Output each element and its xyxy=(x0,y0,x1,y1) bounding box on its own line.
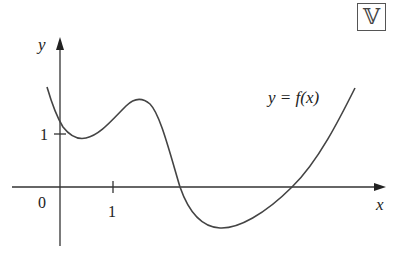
x-axis-arrow-icon xyxy=(374,183,386,191)
y-axis-arrow-icon xyxy=(56,37,64,50)
function-plot: y x 0 1 1 y = f(x) xyxy=(0,0,395,262)
video-icon[interactable]: 𝕍 xyxy=(357,3,386,31)
x-tick-label-1: 1 xyxy=(108,203,116,220)
y-tick-label-1: 1 xyxy=(40,126,48,143)
graph-figure: y x 0 1 1 y = f(x) 𝕍 xyxy=(0,0,395,262)
curve-f-of-x xyxy=(47,87,355,228)
origin-label: 0 xyxy=(38,194,46,211)
curve-label: y = f(x) xyxy=(266,88,319,107)
x-axis-label: x xyxy=(375,195,384,214)
y-axis-label: y xyxy=(36,35,46,54)
